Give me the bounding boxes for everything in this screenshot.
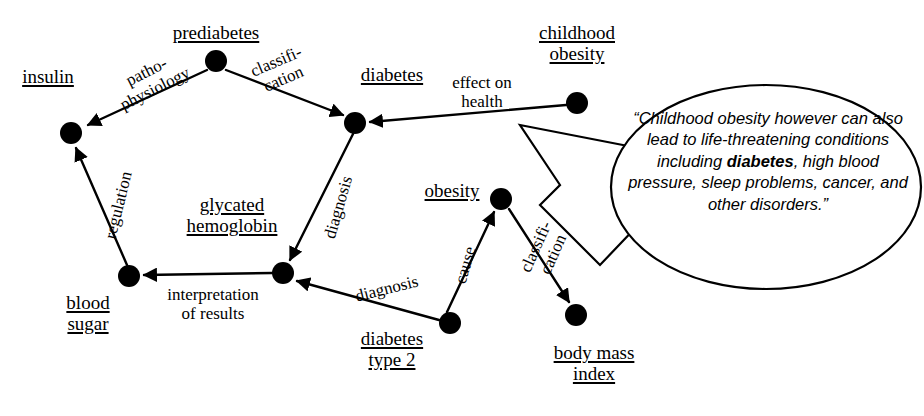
node-label-line: obesity bbox=[539, 43, 615, 64]
node-dot-prediabetes[interactable] bbox=[205, 50, 227, 72]
node-label-obesity[interactable]: obesity bbox=[425, 180, 480, 201]
node-label-line: body mass bbox=[554, 342, 635, 363]
node-label-diabetes-type-2[interactable]: diabetes type 2 bbox=[361, 328, 423, 371]
node-label-prediabetes[interactable]: prediabetes bbox=[173, 22, 260, 43]
node-dot-diabetes-type-2[interactable] bbox=[439, 312, 461, 334]
node-dot-insulin[interactable] bbox=[60, 122, 82, 144]
edge-label-line: health bbox=[432, 93, 532, 112]
edge-label-line: effect on bbox=[432, 74, 532, 93]
node-label-line: index bbox=[554, 363, 635, 384]
node-label-body-mass-index[interactable]: body mass index bbox=[554, 342, 635, 385]
node-label-childhood-obesity[interactable]: childhood obesity bbox=[539, 22, 615, 65]
edge-label-line: of results bbox=[140, 305, 286, 324]
node-label-glycated-hemoglobin[interactable]: glycated hemoglobin bbox=[187, 194, 278, 237]
edge-label-line: interpretation bbox=[140, 286, 286, 305]
node-label-diabetes[interactable]: diabetes bbox=[361, 64, 423, 85]
node-label-insulin[interactable]: insulin bbox=[22, 66, 74, 87]
node-label-line: prediabetes bbox=[173, 22, 260, 43]
node-label-line: hemoglobin bbox=[187, 215, 278, 236]
node-label-line: diabetes bbox=[361, 328, 423, 349]
node-dot-blood-sugar[interactable] bbox=[118, 265, 140, 287]
node-label-line: type 2 bbox=[361, 349, 423, 370]
node-label-blood-sugar[interactable]: blood sugar bbox=[66, 292, 109, 335]
node-label-line: insulin bbox=[22, 66, 74, 87]
node-label-line: diabetes bbox=[361, 64, 423, 85]
node-dot-diabetes[interactable] bbox=[344, 112, 366, 134]
node-label-line: obesity bbox=[425, 180, 480, 201]
edge-glycated-hemoglobin-blood-sugar bbox=[144, 273, 272, 275]
node-dot-childhood-obesity[interactable] bbox=[566, 92, 588, 114]
node-dot-body-mass-index[interactable] bbox=[565, 304, 587, 326]
node-label-line: blood bbox=[66, 292, 109, 313]
callout-quote-bold-term: diabetes bbox=[727, 152, 794, 170]
concept-map-diagram: insulin prediabetes diabetes childhood o… bbox=[0, 0, 924, 416]
callout-quote-text: “Childhood obesity however can also lead… bbox=[624, 108, 912, 215]
edge-label-interpretation-of-results: interpretation of results bbox=[140, 286, 286, 323]
edge-label-effect-on-health: effect on health bbox=[432, 74, 532, 111]
node-dot-glycated-hemoglobin[interactable] bbox=[272, 262, 294, 284]
node-dot-obesity[interactable] bbox=[490, 188, 512, 210]
node-label-line: childhood bbox=[539, 22, 615, 43]
node-label-line: glycated bbox=[187, 194, 278, 215]
node-label-line: sugar bbox=[66, 313, 109, 334]
